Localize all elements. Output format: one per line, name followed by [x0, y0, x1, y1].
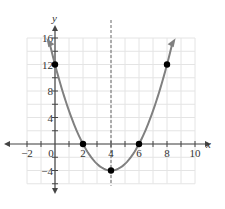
x-axis-label: x — [205, 138, 211, 150]
y-tick-label: 8 — [48, 85, 54, 97]
axes — [4, 25, 211, 194]
x-tick-label: 4 — [108, 147, 114, 159]
x-tick-label: 10 — [190, 147, 202, 159]
x-tick-label: −2 — [21, 147, 33, 159]
data-point — [80, 141, 86, 147]
y-arrow-down-icon — [52, 188, 58, 194]
data-point — [164, 61, 170, 67]
y-axis-label: y — [51, 12, 57, 24]
data-point — [108, 167, 114, 173]
data-point — [52, 61, 58, 67]
parabola-chart: −20246810−4481216 x y — [0, 0, 225, 209]
x-tick-label: 8 — [164, 147, 170, 159]
y-tick-label: 12 — [42, 59, 53, 71]
x-arrow-left-icon — [4, 141, 10, 147]
y-tick-label: −4 — [41, 165, 53, 177]
x-tick-label: 0 — [48, 147, 54, 159]
y-tick-label: 4 — [48, 112, 54, 124]
y-arrow-up-icon — [52, 25, 58, 31]
data-point — [136, 141, 142, 147]
curve-arrow-right-icon — [168, 38, 176, 47]
